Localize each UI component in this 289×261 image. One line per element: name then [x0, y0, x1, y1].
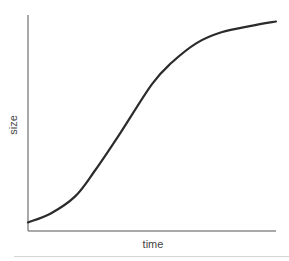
chart-area: size time: [0, 0, 289, 261]
y-axis-label: size: [7, 115, 19, 135]
growth-chart-svg: [0, 0, 289, 261]
divider: [14, 256, 289, 257]
x-axis-label: time: [143, 238, 164, 250]
growth-curve: [28, 22, 276, 223]
